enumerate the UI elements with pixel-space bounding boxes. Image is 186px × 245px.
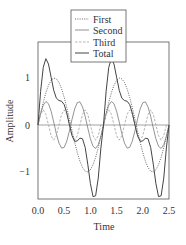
y-tick-label: 1 — [25, 72, 30, 83]
legend-label-third: Third — [93, 37, 115, 48]
x-tick-label: 1.5 — [110, 205, 123, 216]
x-tick-label: 2.0 — [137, 205, 150, 216]
legend: First Second Third Total — [71, 10, 126, 62]
y-axis-label: Amplitude — [4, 99, 15, 142]
legend-label-second: Second — [93, 25, 122, 36]
y-tick-label: 0 — [25, 120, 30, 131]
x-tick-label: 2.5 — [163, 205, 176, 216]
x-tick-label: 0.5 — [58, 205, 71, 216]
legend-label-total: Total — [93, 48, 114, 59]
series-layer — [38, 59, 169, 197]
series-line-total — [38, 59, 169, 197]
x-axis-label: Time — [94, 221, 115, 232]
y-tick-label: −1 — [19, 166, 30, 177]
legend-label-first: First — [93, 14, 112, 25]
amplitude-chart: 1 0 −1 0.0 0.5 1.0 1.5 2.0 2.5 Time Ampl… — [0, 0, 186, 245]
x-tick-label: 1.0 — [84, 205, 97, 216]
x-tick-label: 0.0 — [32, 205, 45, 216]
